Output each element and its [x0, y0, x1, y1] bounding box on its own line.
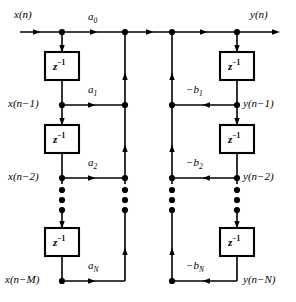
delay-blocks [45, 52, 254, 256]
coef-label-aN: aN [88, 260, 99, 274]
coef-label-a0: a0 [88, 11, 97, 25]
ellipsis-dots [59, 187, 240, 213]
node-label-x-n-2: x(n−2) [8, 171, 39, 182]
figure-canvas: x(n) y(n) x(n−1) x(n−2) x(n−M) y(n−1) y(… [0, 0, 296, 302]
coef-label-a2: a2 [88, 157, 97, 171]
delay-label-right-3: z−1 [228, 235, 240, 248]
coef-label-b2: −b2 [186, 157, 203, 171]
delay-label-left-3: z−1 [53, 235, 65, 248]
delay-label-left-1: z−1 [53, 59, 65, 72]
node-label-x-n-M: x(n−M) [5, 274, 39, 285]
output-label: y(n) [250, 9, 268, 20]
coef-label-a1: a1 [88, 84, 97, 98]
junction-dots [59, 29, 240, 284]
delay-label-right-2: z−1 [228, 132, 240, 145]
coef-label-b1: −b1 [186, 84, 203, 98]
flow-graph-svg [0, 0, 296, 302]
delay-label-left-2: z−1 [53, 132, 65, 145]
node-label-y-n-1: y(n−1) [243, 98, 274, 109]
node-label-x-n-1: x(n−1) [8, 98, 39, 109]
coef-label-bN: −bN [186, 260, 204, 274]
delay-label-right-1: z−1 [228, 59, 240, 72]
node-label-y-n-2: y(n−2) [243, 171, 274, 182]
node-label-y-n-N: y(n−N) [243, 274, 275, 285]
input-label: x(n) [14, 9, 32, 20]
